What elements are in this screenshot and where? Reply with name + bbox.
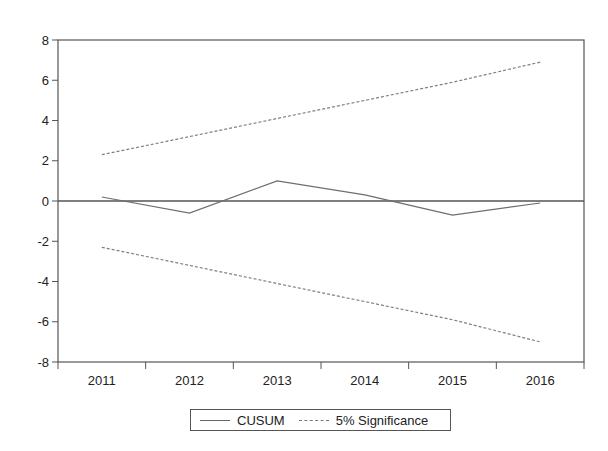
x-tick-label: 2012 — [175, 373, 204, 388]
legend-item-cusum: CUSUM — [200, 413, 285, 428]
dashed-line-swatch-icon — [299, 420, 329, 421]
x-tick-label: 2014 — [350, 373, 379, 388]
significance-band-line — [102, 247, 540, 342]
legend: CUSUM 5% Significance — [190, 409, 451, 431]
x-tick-label: 2016 — [526, 373, 555, 388]
y-tick-label: 6 — [42, 73, 49, 88]
legend-label: 5% Significance — [336, 413, 429, 428]
y-tick-label: -8 — [37, 355, 49, 370]
significance-band-line — [102, 62, 540, 155]
y-tick-label: 8 — [42, 33, 49, 48]
x-tick-label: 2013 — [263, 373, 292, 388]
solid-line-swatch-icon — [200, 420, 230, 421]
y-tick-label: -2 — [37, 234, 49, 249]
cusum-chart: -8-6-4-202468 201120122013201420152016 — [0, 0, 608, 451]
legend-item-significance: 5% Significance — [299, 413, 429, 428]
series-group — [102, 62, 540, 342]
cusum-line — [102, 181, 540, 215]
y-tick-label: -4 — [37, 274, 49, 289]
y-tick-label: 0 — [42, 194, 49, 209]
y-tick-label: 2 — [42, 153, 49, 168]
y-tick-label: -6 — [37, 314, 49, 329]
x-tick-label: 2011 — [88, 373, 116, 388]
legend-label: CUSUM — [237, 413, 285, 428]
x-axis: 201120122013201420152016 — [58, 362, 584, 388]
y-tick-label: 4 — [42, 113, 49, 128]
x-tick-label: 2015 — [438, 373, 467, 388]
y-axis: -8-6-4-202468 — [37, 33, 58, 370]
